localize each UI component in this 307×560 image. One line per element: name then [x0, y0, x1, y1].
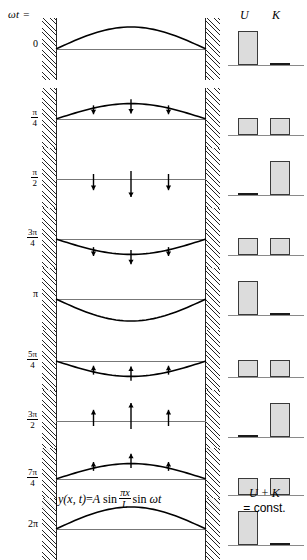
- arrow-head: [91, 251, 96, 256]
- arrow-head: [128, 192, 133, 197]
- phase-label: 3π4: [0, 228, 38, 248]
- equation-lhs: y(x, t): [58, 492, 86, 506]
- bar-baseline: [228, 377, 304, 378]
- string-shape: [42, 88, 220, 150]
- phase-numerator: π: [31, 108, 38, 118]
- phase-label: 2π: [0, 518, 38, 529]
- arrow-head: [166, 186, 171, 191]
- cycle-row: 5π4: [0, 330, 307, 392]
- energy-bar-chart: [228, 148, 307, 210]
- bar-baseline: [228, 65, 304, 66]
- potential-energy-bar: [238, 360, 258, 377]
- arrow-head: [91, 186, 96, 191]
- phase-label: π2: [0, 168, 38, 188]
- kinetic-energy-bar: [270, 360, 290, 377]
- string-shape: [42, 330, 220, 392]
- arrow-head: [91, 110, 96, 115]
- equation-omega-t: ωt: [150, 492, 162, 506]
- phase-fraction: 3π4: [27, 228, 38, 248]
- string-curve: [56, 299, 206, 321]
- velocity-arrow: [91, 366, 96, 375]
- potential-energy-bar: [238, 281, 258, 315]
- string-shape: [42, 208, 220, 270]
- kinetic-energy-bar: [270, 543, 290, 546]
- kinetic-energy-bar: [270, 238, 290, 255]
- cycle-row: π: [0, 268, 307, 330]
- string-panel: [42, 148, 220, 210]
- velocity-arrow: [128, 454, 133, 468]
- velocity-arrow: [128, 99, 133, 113]
- phase-denominator: 4: [27, 360, 38, 370]
- cycle-row: 0: [0, 18, 307, 80]
- string-panel: [42, 330, 220, 392]
- kinetic-energy-bar: [270, 161, 290, 195]
- potential-energy-bar: [238, 511, 258, 545]
- phase-numerator: 3π: [27, 228, 38, 238]
- wave-equation: y(x, t)=A sinπxLsin ωt: [58, 488, 161, 510]
- arrow-head: [91, 366, 96, 371]
- string-shape: [42, 390, 220, 452]
- velocity-arrow: [128, 171, 133, 197]
- velocity-arrow: [166, 247, 171, 256]
- phase-fraction: π4: [31, 108, 38, 128]
- bar-baseline: [228, 315, 304, 316]
- phase-denominator: 4: [27, 238, 38, 248]
- arrow-head: [166, 462, 171, 467]
- velocity-arrow: [166, 174, 171, 190]
- string-panel: [42, 208, 220, 270]
- energy-const-label: = const.: [222, 501, 307, 516]
- velocity-arrow: [91, 247, 96, 256]
- velocity-arrow: [166, 366, 171, 375]
- kinetic-energy-bar: [270, 118, 290, 135]
- velocity-arrow: [128, 250, 133, 264]
- kinetic-energy-bar: [270, 403, 290, 437]
- string-panel: [42, 18, 220, 80]
- cycle-row: 3π2: [0, 390, 307, 452]
- string-shape: [42, 148, 220, 210]
- string-panel: [42, 268, 220, 330]
- energy-bar-chart: [228, 330, 307, 392]
- cycle-row: 3π4: [0, 208, 307, 270]
- equation-fraction: πxL: [119, 488, 130, 510]
- phase-value: 2π: [28, 518, 38, 529]
- string-curve: [56, 507, 206, 529]
- arrow-head: [166, 366, 171, 371]
- energy-conservation-note: U + K = const.: [222, 486, 307, 516]
- phase-label: 0: [0, 38, 38, 49]
- phase-label: π4: [0, 108, 38, 128]
- equation-sin-2: sin: [133, 492, 147, 506]
- phase-fraction: 7π4: [27, 468, 38, 488]
- potential-energy-bar: [238, 435, 258, 438]
- arrow-head: [128, 454, 133, 459]
- string-shape: [42, 268, 220, 330]
- arrow-head: [166, 410, 171, 415]
- kinetic-energy-bar: [270, 313, 290, 316]
- energy-sum-label: U + K: [222, 486, 307, 501]
- phase-label: π: [0, 288, 38, 299]
- potential-energy-bar: [238, 238, 258, 255]
- energy-bar-chart: [228, 18, 307, 80]
- potential-energy-bar: [238, 31, 258, 65]
- bar-baseline: [228, 437, 304, 438]
- equation-sin-1: sin: [103, 492, 117, 506]
- energy-bar-chart: [228, 268, 307, 330]
- energy-bar-chart: [228, 88, 307, 150]
- phase-denominator: 2: [31, 178, 38, 188]
- arrow-head: [166, 251, 171, 256]
- string-panel: [42, 390, 220, 452]
- equation-amplitude: A: [93, 492, 100, 506]
- phase-fraction: π2: [31, 168, 38, 188]
- phase-label: 5π4: [0, 350, 38, 370]
- energy-bar-chart: [228, 390, 307, 452]
- velocity-arrow: [91, 105, 96, 114]
- phase-numerator: π: [31, 168, 38, 178]
- string-curve: [56, 27, 206, 49]
- phase-denominator: 4: [31, 118, 38, 128]
- string-shape: [42, 18, 220, 80]
- potential-energy-bar: [238, 193, 258, 196]
- equation-equals: =: [86, 492, 93, 506]
- phase-denominator: 4: [27, 478, 38, 488]
- kinetic-energy-bar: [270, 63, 290, 66]
- phase-denominator: 2: [27, 420, 38, 430]
